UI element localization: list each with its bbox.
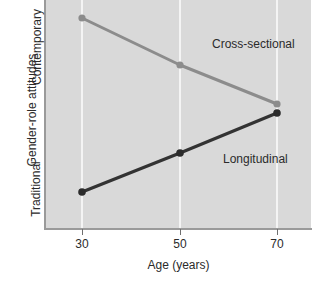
x-tick-label-50: 50 <box>160 237 200 251</box>
gridlines <box>82 0 277 229</box>
x-tick-mark-30 <box>82 229 83 235</box>
data-point <box>78 188 86 196</box>
series-label-cross-sectional: Cross-sectional <box>212 37 295 51</box>
chart-figure: Cross-sectional Longitudinal 30 50 70 Ag… <box>0 0 318 281</box>
data-point <box>78 14 85 21</box>
x-tick-mark-50 <box>180 229 181 235</box>
x-tick-mark-70 <box>277 229 278 235</box>
plot-area: Cross-sectional Longitudinal <box>46 0 311 229</box>
data-point <box>176 149 184 157</box>
data-point <box>176 61 183 68</box>
x-tick-label-30: 30 <box>62 237 102 251</box>
x-axis-line <box>44 228 312 230</box>
data-point <box>273 100 280 107</box>
x-axis-title: Age (years) <box>46 258 311 272</box>
y-axis-title: Gender-role attitudes <box>25 10 39 210</box>
x-tick-label-70: 70 <box>257 237 297 251</box>
series-label-longitudinal: Longitudinal <box>223 152 288 166</box>
plot-svg <box>46 0 311 229</box>
y-axis-line <box>44 0 46 230</box>
data-point <box>273 109 281 117</box>
